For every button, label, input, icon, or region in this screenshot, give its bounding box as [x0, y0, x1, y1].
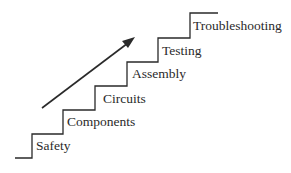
step-label-troubleshooting: Troubleshooting	[193, 18, 282, 33]
step-label-assembly: Assembly	[132, 66, 186, 81]
step-label-circuits: Circuits	[103, 91, 146, 106]
step-label-safety: Safety	[36, 138, 71, 153]
staircase-line	[15, 13, 218, 158]
step-label-testing: Testing	[162, 43, 202, 58]
staircase-diagram: Safety Components Circuits Assembly Test…	[0, 0, 291, 173]
step-label-components: Components	[67, 114, 135, 129]
